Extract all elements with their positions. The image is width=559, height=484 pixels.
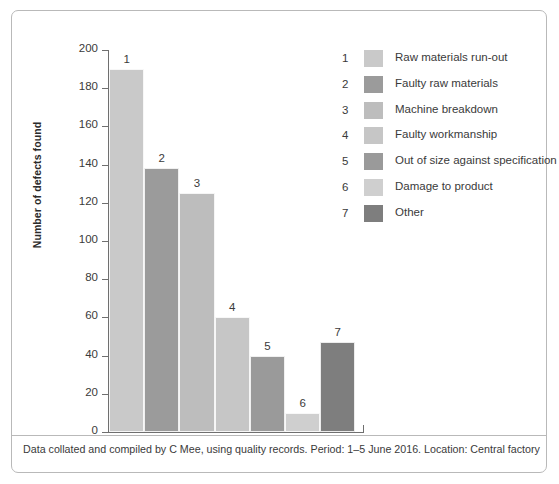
legend-swatch-6 xyxy=(364,179,383,196)
legend-item-5: 5Out of size against specification xyxy=(342,152,552,178)
legend-swatch-1 xyxy=(364,50,383,67)
bar-value-label: 6 xyxy=(299,397,305,409)
bar-value-label: 2 xyxy=(159,152,165,164)
legend-item-label: Out of size against specification xyxy=(395,154,557,166)
y-axis-tick-label: 140 xyxy=(58,157,98,169)
legend-item-label: Other xyxy=(395,206,424,218)
bar-6: 6 xyxy=(285,413,320,432)
y-axis-tick-label: 80 xyxy=(58,271,98,283)
chart-caption: Data collated and compiled by C Mee, usi… xyxy=(23,443,535,455)
caption-divider xyxy=(12,435,546,436)
legend-item-number: 2 xyxy=(342,78,354,90)
legend-swatch-2 xyxy=(364,76,383,93)
y-axis-tick xyxy=(102,317,109,318)
legend-item-4: 4Faulty workmanship xyxy=(342,126,552,152)
legend-swatch-7 xyxy=(364,205,383,222)
bar-value-label: 1 xyxy=(123,53,129,65)
bar-1: 1 xyxy=(109,69,144,432)
y-axis-tick-label: 20 xyxy=(58,386,98,398)
bar-7: 7 xyxy=(320,342,355,432)
legend-swatch-3 xyxy=(364,102,383,119)
y-axis-tick xyxy=(102,88,109,89)
y-axis-tick xyxy=(102,241,109,242)
bar-3: 3 xyxy=(179,193,214,432)
legend-item-number: 6 xyxy=(342,181,354,193)
legend-swatch-4 xyxy=(364,127,383,144)
y-axis-tick-label: 40 xyxy=(58,348,98,360)
bar-value-label: 7 xyxy=(335,326,341,338)
y-axis-tick xyxy=(102,165,109,166)
legend-item-label: Faulty raw materials xyxy=(395,77,498,89)
y-axis-tick-label: 180 xyxy=(58,80,98,92)
legend-item-3: 3Machine breakdown xyxy=(342,101,552,127)
y-axis-tick xyxy=(102,203,109,204)
legend-item-7: 7Other xyxy=(342,204,552,230)
y-axis-tick-label: 100 xyxy=(58,233,98,245)
legend-item-number: 3 xyxy=(342,104,354,116)
bar-2: 2 xyxy=(144,168,179,432)
y-axis-tick xyxy=(102,394,109,395)
bars-container: 1234567 xyxy=(109,50,364,432)
y-axis-tick-label: 120 xyxy=(58,195,98,207)
x-axis-line xyxy=(108,432,364,433)
y-axis-tick xyxy=(102,356,109,357)
bar-value-label: 5 xyxy=(264,340,270,352)
legend-item-number: 4 xyxy=(342,129,354,141)
chart-plot-area: Number of defects found 0204060801001201… xyxy=(12,11,546,427)
legend-item-label: Faulty workmanship xyxy=(395,128,497,140)
chart-figure: Number of defects found 0204060801001201… xyxy=(11,10,547,473)
y-axis-tick xyxy=(102,126,109,127)
legend-item-1: 1Raw materials run-out xyxy=(342,49,552,75)
legend-item-2: 2Faulty raw materials xyxy=(342,75,552,101)
y-axis-title: Number of defects found xyxy=(31,105,43,265)
y-axis-tick-label: 160 xyxy=(58,118,98,130)
legend-item-6: 6Damage to product xyxy=(342,178,552,204)
legend-item-number: 5 xyxy=(342,155,354,167)
legend-item-label: Machine breakdown xyxy=(395,103,498,115)
y-axis-tick-label: 60 xyxy=(58,309,98,321)
chart-legend: 1Raw materials run-out2Faulty raw materi… xyxy=(342,49,552,230)
bar-5: 5 xyxy=(250,356,285,432)
y-axis-tick xyxy=(102,50,109,51)
legend-item-label: Raw materials run-out xyxy=(395,51,507,63)
legend-item-label: Damage to product xyxy=(395,180,493,192)
legend-item-number: 7 xyxy=(342,207,354,219)
legend-swatch-5 xyxy=(364,153,383,170)
bar-value-label: 3 xyxy=(194,177,200,189)
bar-4: 4 xyxy=(215,317,250,432)
bar-value-label: 4 xyxy=(229,301,235,313)
y-axis-tick xyxy=(102,279,109,280)
y-axis-tick-label: 200 xyxy=(58,42,98,54)
legend-item-number: 1 xyxy=(342,52,354,64)
